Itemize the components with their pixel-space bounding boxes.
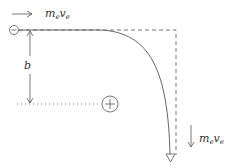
initial-momentum-arrow — [12, 11, 32, 17]
deflected-trajectory — [19, 30, 170, 155]
initial-momentum-label: meve — [45, 8, 70, 21]
trajectory-arrowhead — [166, 154, 175, 162]
final-momentum-arrow — [188, 125, 194, 147]
final-momentum-label: meve — [199, 133, 224, 146]
nucleus-charge-icon — [102, 96, 118, 112]
undeflected-path — [19, 30, 176, 155]
electron-charge-icon — [10, 26, 19, 35]
impact-parameter-label: b — [24, 60, 31, 71]
